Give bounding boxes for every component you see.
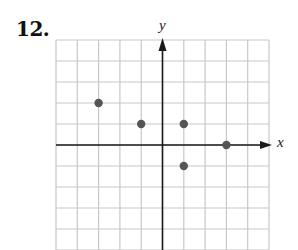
axes — [56, 38, 272, 250]
data-point — [137, 120, 145, 128]
data-point — [222, 141, 230, 149]
data-point — [180, 120, 188, 128]
data-point — [180, 162, 188, 170]
x-axis-arrow-icon — [260, 141, 272, 149]
data-point — [94, 99, 102, 107]
coordinate-plane — [0, 0, 298, 250]
